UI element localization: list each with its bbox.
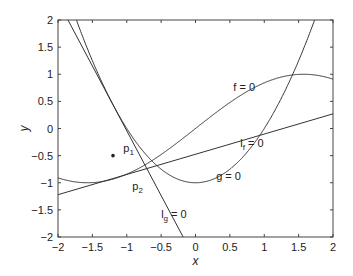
x-tick-label: 0.5 bbox=[222, 241, 237, 253]
x-tick-label: −2 bbox=[52, 241, 65, 253]
series-f bbox=[58, 74, 333, 182]
y-axis-label: y bbox=[17, 125, 31, 133]
x-tick-label: 1 bbox=[261, 241, 267, 253]
y-tick-label: 2 bbox=[47, 14, 53, 26]
x-tick-label: −1 bbox=[120, 241, 133, 253]
y-tick-label: −1.5 bbox=[31, 204, 53, 216]
y-tick-label: −0.5 bbox=[31, 150, 53, 162]
point-p1 bbox=[111, 154, 115, 158]
annotation: g = 0 bbox=[216, 170, 241, 182]
y-tick-label: 0 bbox=[47, 123, 53, 135]
y-tick-label: −2 bbox=[40, 231, 53, 243]
plot-area: −2−1.5−1−0.500.511.52−2−1.5−1−0.500.511.… bbox=[0, 0, 353, 276]
x-tick-label: −1.5 bbox=[82, 241, 104, 253]
y-tick-label: 1.5 bbox=[38, 41, 53, 53]
x-tick-label: 0 bbox=[192, 241, 198, 253]
series-g bbox=[58, 0, 333, 183]
annotation: p2 bbox=[132, 180, 143, 195]
x-tick-label: 1.5 bbox=[291, 241, 306, 253]
annotation: f = 0 bbox=[233, 81, 255, 93]
x-tick-label: −0.5 bbox=[150, 241, 172, 253]
y-tick-label: 0.5 bbox=[38, 95, 53, 107]
chart: −2−1.5−1−0.500.511.52−2−1.5−1−0.500.511.… bbox=[0, 0, 353, 276]
series-lg bbox=[68, 20, 183, 237]
y-tick-label: 1 bbox=[47, 68, 53, 80]
x-tick-label: 2 bbox=[330, 241, 336, 253]
annotation: p1 bbox=[123, 142, 134, 157]
y-tick-label: −1 bbox=[40, 177, 53, 189]
annotation: lg = 0 bbox=[161, 208, 187, 223]
x-axis-label: x bbox=[192, 254, 200, 268]
